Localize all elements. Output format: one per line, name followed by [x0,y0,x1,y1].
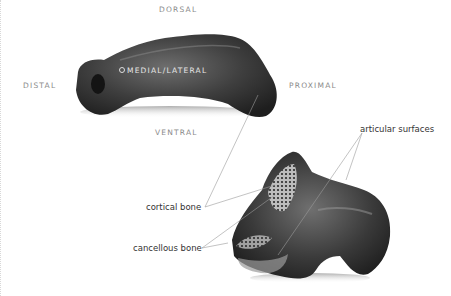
label-distal: DISTAL [23,81,56,90]
nutrient-cavity [91,74,105,94]
bone-illustration [0,0,451,296]
callout-articular-surfaces: articular surfaces [360,124,434,134]
bottom-bone-image [232,152,390,283]
top-bone-image [76,34,277,118]
phalanx-side-view [76,34,277,117]
callout-cancellous-bone: cancellous bone [133,243,202,253]
label-ventral: VENTRAL [155,128,198,137]
callout-cortical-bone: cortical bone [146,202,201,212]
label-proximal: PROXIMAL [289,81,337,90]
phalanx-end-view [232,152,390,279]
leader-articular-2 [346,133,362,180]
label-medial-lateral: MEDIAL/LATERAL [127,66,207,75]
label-dorsal: DORSAL [159,5,197,14]
